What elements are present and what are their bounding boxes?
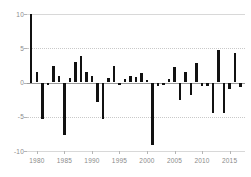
x-tick-mark: [64, 151, 65, 154]
x-tick-mark: [202, 151, 203, 154]
bar-chart: 1050-5-10 198019851990199520002005201020…: [0, 0, 251, 177]
x-tick-label: 1980: [29, 157, 44, 165]
x-tick-mark: [92, 151, 93, 154]
x-tick-label: 1985: [57, 157, 72, 165]
x-tick-label: 2015: [222, 157, 237, 165]
x-tick-label: 1995: [112, 157, 127, 165]
x-axis: 19801985199019952000200520102015: [0, 0, 251, 177]
x-tick-mark: [119, 151, 120, 154]
x-tick-label: 2005: [167, 157, 182, 165]
x-tick-label: 1990: [84, 157, 99, 165]
x-tick-label: 2000: [139, 157, 154, 165]
x-tick-mark: [175, 151, 176, 154]
x-tick-mark: [230, 151, 231, 154]
x-tick-mark: [147, 151, 148, 154]
x-tick-mark: [37, 151, 38, 154]
x-tick-label: 2010: [194, 157, 209, 165]
